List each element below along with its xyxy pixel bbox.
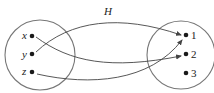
element-label: 3 <box>191 67 197 79</box>
element-dot <box>184 33 189 38</box>
domain-element-z: z <box>21 65 34 77</box>
relation-diagram: H x y z 1 2 3 <box>0 0 214 93</box>
relation-label: H <box>103 5 113 17</box>
element-label: 2 <box>191 48 197 60</box>
element-label: y <box>21 48 27 60</box>
element-dot <box>184 71 189 76</box>
domain-set-circle <box>5 20 75 90</box>
element-dot <box>30 34 35 39</box>
mapping-arrow-y-to-1 <box>36 23 181 52</box>
element-dot <box>184 52 189 57</box>
codomain-set-circle <box>147 21 214 89</box>
element-label: z <box>21 65 27 77</box>
codomain-element-1: 1 <box>184 29 197 41</box>
mapping-arrow-x-to-2 <box>36 37 181 63</box>
element-label: x <box>21 29 27 41</box>
element-dot <box>30 70 35 75</box>
codomain-element-2: 2 <box>184 48 197 60</box>
domain-element-x: x <box>21 29 34 41</box>
codomain-element-3: 3 <box>184 67 197 79</box>
element-dot <box>30 52 35 57</box>
element-label: 1 <box>191 29 197 41</box>
domain-element-y: y <box>21 48 34 60</box>
